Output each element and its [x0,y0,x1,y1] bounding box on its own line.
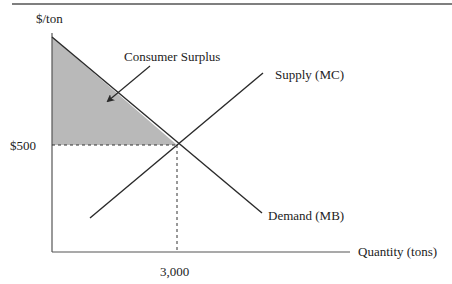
supply-label: Supply (MC) [275,67,344,82]
consumer-surplus-label: Consumer Surplus [124,49,220,64]
x-axis-label: Quantity (tons) [358,244,437,259]
supply-demand-figure: $/ton Consumer Surplus Supply (MC) $500 … [0,0,452,284]
y-axis-label: $/ton [36,11,63,26]
quantity-tick-label: 3,000 [160,264,189,279]
price-tick-label: $500 [10,138,36,153]
demand-label: Demand (MB) [268,208,344,223]
consumer-surplus-arrow [108,66,150,101]
